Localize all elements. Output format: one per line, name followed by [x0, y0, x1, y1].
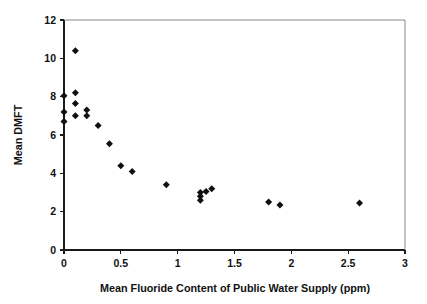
y-tick-label: 2: [50, 205, 56, 217]
x-tick-label: 1.5: [227, 257, 242, 269]
y-tick-label: 8: [50, 90, 56, 102]
data-point: [106, 140, 113, 147]
plot-frame: [64, 20, 405, 250]
data-point: [61, 118, 68, 125]
data-point: [208, 185, 215, 192]
data-point: [163, 181, 170, 188]
data-point: [197, 197, 204, 204]
data-point: [61, 109, 68, 116]
x-tick-label: 0.5: [114, 257, 129, 269]
data-point: [356, 200, 363, 207]
y-axis-tick-labels: 024681012: [44, 14, 56, 256]
x-axis-tick-labels: 00.511.522.53: [61, 257, 408, 269]
x-tick-label: 2.5: [341, 257, 356, 269]
data-point-markers: [61, 47, 364, 208]
data-point: [265, 199, 272, 206]
y-tick-label: 6: [50, 129, 56, 141]
data-point: [72, 112, 79, 119]
x-tick-label: 0: [61, 257, 67, 269]
x-tick-label: 2: [288, 257, 294, 269]
plot-box-top-right: [64, 20, 405, 250]
x-axis-title: Mean Fluoride Content of Public Water Su…: [100, 282, 371, 294]
data-point: [203, 188, 210, 195]
chart-figure: 024681012 00.511.522.53 Mean Fluoride Co…: [0, 0, 427, 304]
scatter-plot: 024681012 00.511.522.53 Mean Fluoride Co…: [0, 0, 427, 304]
data-point: [61, 92, 68, 99]
data-point: [83, 112, 90, 119]
y-axis-title: Mean DMFT: [12, 104, 24, 165]
y-tick-label: 4: [50, 167, 56, 179]
y-tick-label: 12: [44, 14, 56, 26]
axis-spines: [64, 20, 405, 250]
data-point: [276, 201, 283, 208]
x-tick-label: 1: [175, 257, 181, 269]
data-point: [95, 122, 102, 129]
data-point: [72, 100, 79, 107]
data-point: [129, 168, 136, 175]
y-tick-label: 0: [50, 244, 56, 256]
x-tick-label: 3: [402, 257, 408, 269]
data-point: [72, 47, 79, 54]
data-point: [72, 89, 79, 96]
y-axis-ticks: [60, 20, 64, 250]
y-tick-label: 10: [44, 52, 56, 64]
x-axis-ticks: [64, 250, 405, 254]
data-point: [117, 162, 124, 169]
